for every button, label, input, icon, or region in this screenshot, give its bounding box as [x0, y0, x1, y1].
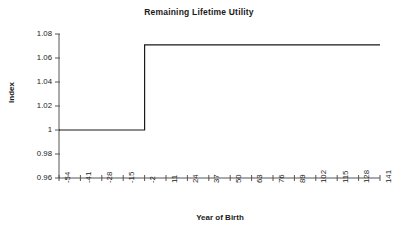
- x-tick-label: 37: [212, 174, 221, 183]
- x-tick-label: 115: [341, 171, 350, 183]
- x-tick-label: -28: [105, 172, 114, 183]
- chart-figure: Remaining Lifetime Utility Index Year of…: [0, 0, 398, 234]
- x-tick-label: 141: [384, 170, 393, 183]
- x-tick-label: -54: [63, 172, 72, 183]
- data-series-line: [59, 45, 380, 130]
- x-tick-label: 11: [170, 175, 179, 183]
- x-tick-label: -2: [148, 176, 157, 183]
- y-tick-label: 1: [8, 125, 52, 134]
- x-tick-label: 50: [234, 174, 243, 183]
- x-tick-label: -41: [84, 172, 93, 183]
- x-tick-label: -15: [127, 172, 136, 183]
- plot-area: [0, 0, 398, 234]
- x-tick-label: 102: [319, 170, 328, 183]
- x-tick-label: 24: [191, 174, 200, 183]
- x-tick-label: 63: [255, 174, 264, 183]
- y-tick-label: 1.06: [8, 53, 52, 62]
- axes: [59, 34, 380, 178]
- x-tick-label: 89: [298, 174, 307, 183]
- data-series-group: [59, 45, 380, 130]
- y-tick-label: 0.98: [8, 149, 52, 158]
- x-tick-label: 76: [277, 174, 286, 183]
- y-tick-label: 1.08: [8, 29, 52, 38]
- y-tick-label: 0.96: [8, 173, 52, 182]
- y-tick-label: 1.02: [8, 101, 52, 110]
- y-tick-label: 1.04: [8, 77, 52, 86]
- x-tick-label: 128: [362, 170, 371, 183]
